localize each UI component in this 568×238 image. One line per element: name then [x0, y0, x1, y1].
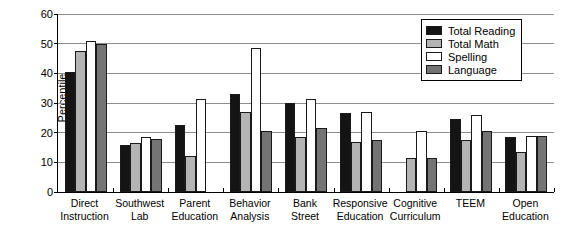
bar-group-bars — [113, 14, 168, 192]
bar — [175, 125, 186, 192]
bar-group-bars — [58, 14, 113, 192]
legend-item: Total Math — [426, 37, 515, 50]
bar — [120, 145, 131, 192]
y-axis-tick-label: 30 — [41, 97, 53, 109]
bar — [141, 137, 152, 192]
legend-swatch-icon — [426, 26, 442, 35]
bar — [416, 131, 427, 192]
bar — [295, 137, 306, 192]
bar — [427, 158, 438, 192]
bar-group — [223, 14, 278, 192]
bar — [461, 140, 472, 192]
bar-group-bars — [223, 14, 278, 192]
bar — [471, 115, 482, 192]
bar-group — [278, 14, 333, 192]
bar — [230, 94, 241, 192]
bar-group-bars — [334, 14, 389, 192]
legend-swatch-icon — [426, 65, 442, 74]
x-axis-category-line: Curriculum — [380, 210, 451, 223]
y-axis-tick-label: 20 — [41, 127, 53, 139]
bar — [261, 131, 272, 192]
bar-group — [58, 14, 113, 192]
legend-swatch-icon — [426, 39, 442, 48]
bar — [406, 158, 417, 192]
chart-legend: Total ReadingTotal MathSpellingLanguage — [421, 19, 522, 81]
x-axis-category-line: Open — [490, 197, 561, 210]
bar-group — [113, 14, 168, 192]
bar — [65, 72, 76, 192]
bar — [306, 99, 317, 192]
bar — [75, 51, 86, 192]
bar — [516, 152, 527, 192]
bar — [482, 131, 493, 192]
bar — [361, 112, 372, 192]
bar — [151, 139, 162, 192]
bar — [526, 136, 537, 192]
bar-group-bars — [168, 14, 223, 192]
y-axis-tick-label: 40 — [41, 67, 53, 79]
legend-item: Spelling — [426, 50, 515, 63]
bar — [196, 99, 207, 192]
bar — [251, 48, 262, 192]
bar — [372, 140, 383, 192]
bar — [240, 112, 251, 192]
bar — [285, 103, 296, 192]
x-axis-category-line: Education — [490, 210, 561, 223]
y-axis-tick-label: 60 — [41, 8, 53, 20]
legend-swatch-icon — [426, 52, 442, 61]
x-axis-category-label: OpenEducation — [490, 197, 561, 222]
legend-item-label: Total Reading — [448, 25, 515, 37]
bar — [340, 113, 351, 192]
bar-group — [168, 14, 223, 192]
bar — [96, 44, 107, 192]
bar — [185, 156, 196, 192]
legend-item-label: Total Math — [448, 38, 499, 50]
bar-group-bars — [278, 14, 333, 192]
bar — [130, 143, 141, 192]
legend-item: Language — [426, 63, 515, 76]
bar — [537, 136, 548, 192]
legend-item: Total Reading — [426, 24, 515, 37]
bar-group — [334, 14, 389, 192]
legend-item-label: Language — [448, 64, 497, 76]
bar — [316, 128, 327, 192]
x-axis-tick-mark — [554, 188, 555, 192]
bar — [351, 142, 362, 192]
bar — [450, 119, 461, 192]
y-axis-tick-label: 10 — [41, 156, 53, 168]
bar — [505, 137, 516, 192]
bar — [86, 41, 97, 192]
bar-chart-figure: Percentile 0102030405060 Total ReadingTo… — [0, 0, 568, 238]
legend-item-label: Spelling — [448, 51, 487, 63]
y-axis-tick-label: 50 — [41, 38, 53, 50]
